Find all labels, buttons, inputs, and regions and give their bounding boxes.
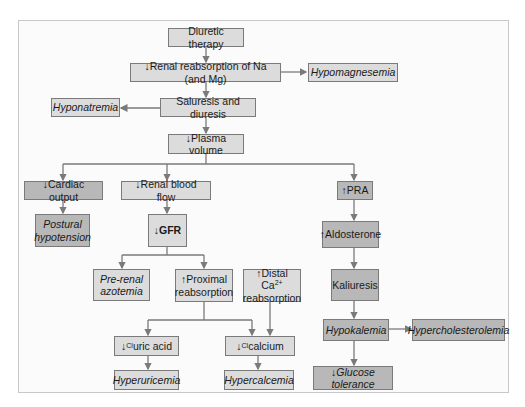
node-hyponatremia: Hyponatremia (51, 98, 120, 117)
node-renal-blood-flow: ↓Renal blood flow (121, 181, 211, 200)
node-plasma-volume: ↓Plasma volume (168, 134, 244, 154)
node-calcium: ↓Clcalcium (225, 336, 295, 356)
node-hypercalcemia: Hypercalcemia (224, 370, 294, 390)
node-glucose-tolerance: ↓Glucose tolerance (313, 366, 393, 390)
node-prerenal-azotemia: Pre-renalazotemia (93, 269, 150, 301)
node-hyperuricemia: Hyperuricemia (114, 370, 179, 390)
node-aldosterone: ↑Aldosterone (322, 221, 379, 248)
node-hypomagnesemia: Hypomagnesemia (308, 63, 398, 82)
node-proximal-reabsorption: ↑Proximalreabsorption (175, 269, 233, 302)
node-cardiac-output: ↓Cardiac output (24, 181, 103, 200)
node-uric-acid: ↓Cluric acid (114, 336, 179, 356)
node-distal-ca-reabsorption: ↑Distal Ca2+reabsorption (243, 269, 301, 302)
node-postural-hypotension: Posturalhypotension (35, 214, 90, 247)
node-hypercholesterolemia: Hypercholesterolemia (412, 319, 505, 341)
node-pra: ↑PRA (337, 181, 373, 200)
node-gfr: ↓GFR (148, 214, 187, 247)
node-renal-reabsorption: ↓Renal reabsorption of Na (and Mg) (130, 63, 281, 82)
node-saluresis: Saluresis and diuresis (160, 98, 256, 117)
node-kaliuresis: Kaliuresis (331, 269, 379, 301)
node-diuretic-therapy: Diuretic therapy (168, 28, 244, 47)
node-hypokalemia: Hypokalemia (323, 319, 389, 341)
